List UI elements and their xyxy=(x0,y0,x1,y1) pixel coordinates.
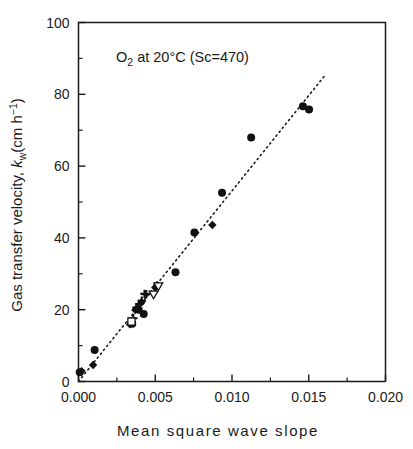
trend-line xyxy=(79,75,326,382)
y-tick-label-5: 100 xyxy=(46,15,70,31)
figure-container: 0.0000.0050.0100.0150.020 020406080100 O… xyxy=(0,0,413,449)
point-filled-circle-5 xyxy=(218,189,226,197)
x-tick-label-3: 0.015 xyxy=(291,389,326,405)
point-filled-circle-1 xyxy=(91,346,99,354)
y-tick-label-2: 40 xyxy=(54,230,70,246)
y-tick-label-4: 80 xyxy=(54,86,70,102)
scatter-plot: 0.0000.0050.0100.0150.020 020406080100 O… xyxy=(0,0,413,449)
axis-spines xyxy=(79,23,386,382)
point-filled-circle-3 xyxy=(172,268,180,276)
x-tick-label-2: 0.010 xyxy=(214,389,249,405)
data-markers xyxy=(76,102,313,376)
point-open-square-0 xyxy=(128,318,135,325)
y-tick-label-0: 0 xyxy=(62,374,70,390)
point-filled-circle-8 xyxy=(305,105,313,113)
plot-frame xyxy=(79,23,386,382)
point-filled-circle-4 xyxy=(190,229,198,237)
series-open-square xyxy=(128,318,135,325)
series-open-triangle-down xyxy=(149,283,163,299)
chart-annotation: O2 at 20°C (Sc=470) xyxy=(116,49,249,68)
x-tick-label-1: 0.005 xyxy=(138,389,173,405)
x-axis-tick-labels: 0.0000.0050.0100.0150.020 xyxy=(61,389,403,405)
point-filled-circle-6 xyxy=(247,133,255,141)
y-axis-title: Gas transfer velocity, kw(cm h−1) xyxy=(7,98,28,312)
y-axis-tick-labels: 020406080100 xyxy=(46,15,70,390)
y-tick-label-3: 60 xyxy=(54,158,70,174)
series-filled-circle xyxy=(76,102,313,376)
x-axis-ticks xyxy=(79,375,386,382)
y-tick-label-1: 20 xyxy=(54,302,70,318)
trend-line-dotted xyxy=(79,75,326,382)
x-axis-title: Mean square wave slope xyxy=(117,422,319,439)
point-filled-diamond-1 xyxy=(89,361,97,369)
y-axis-ticks xyxy=(79,23,86,382)
point-filled-diamond-9 xyxy=(208,221,216,229)
point-open-triangle-down-0 xyxy=(149,291,158,299)
x-tick-label-4: 0.020 xyxy=(368,389,403,405)
x-tick-label-0: 0.000 xyxy=(61,389,96,405)
